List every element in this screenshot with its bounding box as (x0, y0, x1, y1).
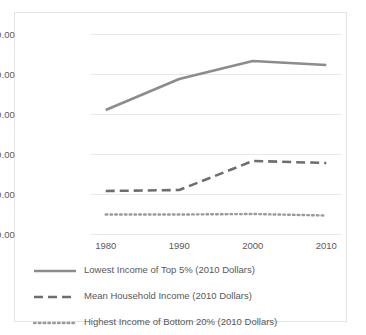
x-axis-tick-labels: 1980199020002010 (91, 240, 341, 256)
chart-figure: $200,000.00$160,000.00$120,000.00$80,000… (14, 12, 347, 322)
legend-label: Lowest Income of Top 5% (2010 Dollars) (84, 264, 255, 275)
x-tick-label: 2000 (242, 240, 263, 251)
series-line (106, 161, 327, 191)
legend-item[interactable]: Mean Household Income (2010 Dollars) (33, 282, 333, 308)
x-tick-label: 2010 (316, 240, 337, 251)
plot-area (91, 34, 341, 234)
gridline (91, 234, 341, 235)
series-lines (91, 34, 341, 234)
series-line (106, 214, 327, 216)
y-tick-label: $40,000.00 (0, 189, 15, 200)
y-tick-label: $0.00 (0, 229, 15, 240)
legend-swatch-dashed (33, 289, 77, 301)
y-tick-label: $80,000.00 (0, 149, 15, 160)
legend-item[interactable]: Highest Income of Bottom 20% (2010 Dolla… (33, 308, 333, 334)
y-tick-label: $120,000.00 (0, 109, 15, 120)
x-tick-label: 1980 (95, 240, 116, 251)
x-tick-label: 1990 (169, 240, 190, 251)
series-line (106, 61, 327, 110)
y-tick-label: $200,000.00 (0, 29, 15, 40)
chart-legend: Lowest Income of Top 5% (2010 Dollars)Me… (33, 256, 333, 334)
legend-label: Mean Household Income (2010 Dollars) (84, 290, 252, 301)
legend-swatch-dotted (33, 315, 77, 327)
legend-label: Highest Income of Bottom 20% (2010 Dolla… (84, 316, 277, 327)
y-tick-label: $160,000.00 (0, 69, 15, 80)
legend-item[interactable]: Lowest Income of Top 5% (2010 Dollars) (33, 256, 333, 282)
y-axis-tick-labels: $200,000.00$160,000.00$120,000.00$80,000… (0, 34, 15, 234)
legend-swatch-solid (33, 263, 77, 275)
